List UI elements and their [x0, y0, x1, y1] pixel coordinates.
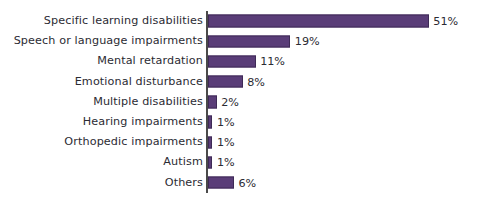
- bar: [208, 96, 217, 108]
- bar-row: Specific learning disabilities51%: [0, 11, 486, 31]
- category-label: Emotional disturbance: [75, 76, 203, 87]
- bar: [208, 136, 212, 148]
- bar: [208, 15, 429, 27]
- bar-value-label: 6%: [238, 177, 256, 188]
- bar-and-value: 1%: [208, 156, 235, 169]
- category-label: Speech or language impairments: [14, 36, 203, 47]
- bar-row: Orthopedic impairments1%: [0, 132, 486, 152]
- category-label: Multiple disabilities: [93, 96, 203, 107]
- bar-value-label: 11%: [260, 56, 285, 67]
- bar-and-value: 2%: [208, 95, 239, 108]
- bar-row: Emotional disturbance8%: [0, 72, 486, 92]
- bar-and-value: 1%: [208, 116, 235, 129]
- bar: [208, 156, 212, 168]
- bar-row: Mental retardation11%: [0, 51, 486, 71]
- bar-value-label: 51%: [433, 15, 458, 26]
- bar-value-label: 1%: [217, 137, 235, 148]
- bar-and-value: 51%: [208, 15, 458, 28]
- bar-row: Speech or language impairments19%: [0, 31, 486, 51]
- chart-plot-area: Specific learning disabilities51%Speech …: [0, 11, 486, 193]
- category-label: Orthopedic impairments: [64, 137, 203, 148]
- category-label: Autism: [163, 157, 203, 168]
- bar-chart: Specific learning disabilities51%Speech …: [0, 0, 486, 202]
- bar-and-value: 1%: [208, 136, 235, 149]
- bar-value-label: 1%: [217, 157, 235, 168]
- bar-value-label: 2%: [221, 96, 239, 107]
- bar-value-label: 19%: [295, 36, 320, 47]
- bar: [208, 55, 256, 67]
- bar-value-label: 1%: [217, 116, 235, 127]
- bar-value-label: 8%: [247, 76, 265, 87]
- bar: [208, 176, 234, 188]
- bar: [208, 75, 243, 87]
- category-label: Others: [165, 177, 203, 188]
- bar-row: Hearing impairments1%: [0, 112, 486, 132]
- bar-and-value: 6%: [208, 176, 256, 189]
- bar-row: Autism1%: [0, 152, 486, 172]
- bar-and-value: 8%: [208, 75, 265, 88]
- bar-and-value: 11%: [208, 55, 285, 68]
- bar: [208, 116, 212, 128]
- bar-row: Others6%: [0, 173, 486, 193]
- category-label: Specific learning disabilities: [44, 15, 203, 26]
- bar-row: Multiple disabilities2%: [0, 92, 486, 112]
- category-label: Mental retardation: [97, 56, 203, 67]
- bar-and-value: 19%: [208, 35, 320, 48]
- bar: [208, 35, 290, 47]
- category-label: Hearing impairments: [83, 116, 203, 127]
